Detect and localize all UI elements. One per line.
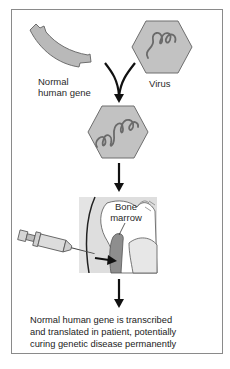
arrow-down-icon xyxy=(112,279,126,309)
gene-label: Normal human gene xyxy=(38,76,91,98)
virus-label: Virus xyxy=(149,78,170,89)
gene-label-line2: human gene xyxy=(38,87,91,98)
outcome-caption: Normal human gene is transcribed and tra… xyxy=(30,314,210,350)
outcome-line3: curing genetic disease permanently xyxy=(30,338,210,350)
bone-marrow-label: Bone marrow xyxy=(104,201,148,223)
gene-label-line1: Normal xyxy=(38,76,91,87)
arrow-down-icon xyxy=(112,163,126,193)
bone-marrow-label-line1: Bone xyxy=(104,201,148,212)
outcome-line2: and translated in patient, potentially xyxy=(30,326,210,338)
recombinant-virus-icon xyxy=(87,105,149,159)
injection-arrow-icon xyxy=(95,254,119,266)
virus-icon xyxy=(131,20,193,74)
outcome-line1: Normal human gene is transcribed xyxy=(30,314,210,326)
gene-segment-icon xyxy=(28,22,98,72)
bone-marrow-label-line2: marrow xyxy=(104,212,148,223)
merge-arrow-icon xyxy=(100,60,140,105)
